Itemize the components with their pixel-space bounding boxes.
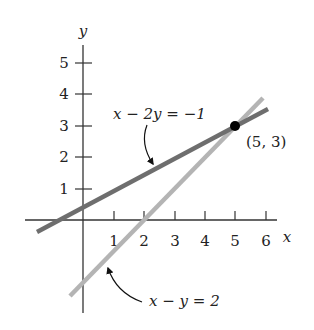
eq2-arrow: [108, 268, 142, 302]
point-label: (5, 3): [246, 133, 286, 151]
eq1-arrow: [145, 125, 153, 164]
x-tick-label-5: 5: [230, 232, 240, 250]
y-tick-label-3: 3: [59, 117, 69, 135]
x-tick-label-4: 4: [200, 232, 210, 250]
eq2-label: x − y = 2: [149, 292, 220, 310]
y-axis-label: y: [78, 22, 88, 40]
intersection-point: [230, 121, 240, 131]
x-tick-label-2: 2: [139, 232, 149, 250]
y-tick-label-2: 2: [59, 148, 69, 166]
graph: 1 2 3 4 5 6 x 1 2 3 4 5 y (5, 3) x − 2y …: [0, 0, 314, 330]
x-tick-label-3: 3: [170, 232, 180, 250]
x-tick-label-6: 6: [261, 232, 271, 250]
y-tick-label-4: 4: [59, 85, 69, 103]
y-tick-label-5: 5: [59, 54, 69, 72]
x-ticks: [114, 211, 266, 220]
y-tick-label-1: 1: [59, 180, 69, 198]
eq1-label: x − 2y = −1: [113, 105, 206, 123]
x-axis-label: x: [283, 228, 292, 246]
